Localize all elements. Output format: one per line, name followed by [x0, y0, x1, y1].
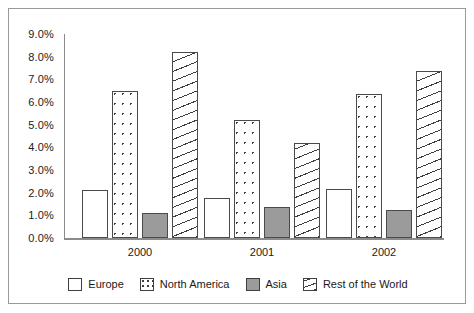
- chart-figure: 9.0% 8.0% 7.0% 6.0% 5.0% 4.0% 3.0% 2.0% …: [0, 0, 474, 313]
- legend-swatch-north-america-icon: [140, 278, 154, 291]
- bar-2001-north-america: [234, 120, 260, 238]
- y-tick-label: 1.0%: [28, 209, 54, 221]
- bar-2000-asia: [142, 213, 168, 238]
- y-tick-label: 3.0%: [28, 164, 54, 176]
- bar-2000-rest-of-the-world: [172, 52, 198, 238]
- y-tick-label: 7.0%: [28, 73, 54, 85]
- y-tick-label: 9.0%: [28, 28, 54, 40]
- legend-label-asia: Asia: [266, 278, 287, 290]
- y-axis-tick-labels: 9.0% 8.0% 7.0% 6.0% 5.0% 4.0% 3.0% 2.0% …: [0, 34, 58, 240]
- plot-area: [64, 34, 444, 240]
- bar-group-2000: [82, 34, 198, 238]
- legend-label-north-america: North America: [160, 278, 230, 290]
- legend-swatch-rest-of-the-world-icon: [303, 278, 317, 291]
- y-tick-label: 6.0%: [28, 96, 54, 108]
- y-tick-label: 5.0%: [28, 119, 54, 131]
- x-tick-label-2002: 2002: [372, 246, 396, 258]
- bar-2002-rest-of-the-world: [416, 71, 442, 238]
- y-tick-label: 0.0%: [28, 232, 54, 244]
- x-tick-label-2000: 2000: [128, 246, 152, 258]
- bar-2001-asia: [264, 207, 290, 238]
- legend-label-rest-of-the-world: Rest of the World: [323, 278, 408, 290]
- bar-2002-asia: [386, 210, 412, 238]
- y-axis-line: [64, 34, 65, 238]
- bar-2002-europe: [326, 189, 352, 238]
- x-axis-line: [64, 238, 444, 240]
- bar-2000-north-america: [112, 91, 138, 238]
- legend-label-europe: Europe: [88, 278, 123, 290]
- legend-entry-north-america: North America: [140, 278, 230, 291]
- bar-2000-europe: [82, 190, 108, 238]
- bar-group-2001: [204, 34, 320, 238]
- y-tick-label: 4.0%: [28, 141, 54, 153]
- legend-entry-europe: Europe: [68, 278, 123, 291]
- legend-swatch-europe-icon: [68, 278, 82, 291]
- x-axis-tick-labels: 2000 2001 2002: [64, 246, 444, 264]
- legend-swatch-asia-icon: [246, 278, 260, 291]
- bar-2001-rest-of-the-world: [294, 143, 320, 238]
- y-tick-label: 8.0%: [28, 51, 54, 63]
- bar-2001-europe: [204, 198, 230, 238]
- legend-entry-asia: Asia: [246, 278, 287, 291]
- bar-2002-north-america: [356, 94, 382, 238]
- bar-group-2002: [326, 34, 442, 238]
- x-tick-label-2001: 2001: [250, 246, 274, 258]
- chart-legend: Europe North America Asia Rest of the Wo…: [28, 272, 448, 296]
- y-tick-label: 2.0%: [28, 187, 54, 199]
- legend-entry-rest-of-the-world: Rest of the World: [303, 278, 408, 291]
